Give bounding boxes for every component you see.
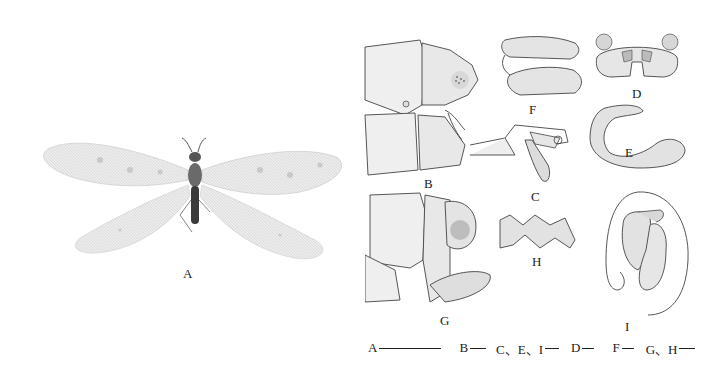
scale-bar-label: D (571, 340, 580, 356)
scale-bar-label: C、E、I (496, 339, 543, 358)
scale-bar-c-e-i: C、E、I (496, 339, 559, 358)
panel-label-b: B (424, 177, 433, 190)
panel-label-e: E (625, 146, 633, 159)
scale-bar-legend: A B C、E、I D F G、H (368, 340, 695, 356)
female-terminalia-illustration (365, 190, 505, 330)
scale-bar-g-h: G、H (646, 339, 696, 358)
panel-e: E (585, 103, 690, 178)
panel-label-i: I (625, 320, 629, 333)
scale-bar-label: F (612, 340, 619, 356)
curved-structure-illustration (585, 103, 690, 178)
panel-label-g: G (440, 314, 449, 327)
panel-g-terminalia-female: G (365, 190, 505, 330)
panel-label-h: H (532, 255, 541, 268)
terminalia-lateral-illustration (360, 35, 480, 185)
panel-c: C (470, 110, 580, 200)
paired-structure-illustration (495, 35, 585, 110)
panel-label-a: A (183, 267, 192, 280)
panel-i-spermatheca: I (598, 190, 698, 335)
scale-bar-line (622, 348, 634, 349)
genital-structure-illustration (470, 110, 580, 200)
scale-bar-line (379, 348, 441, 349)
panel-label-c: C (531, 190, 540, 203)
scale-bar-label: G、H (646, 339, 678, 358)
panel-label-d: D (632, 87, 641, 100)
insect-habitus-illustration (20, 130, 350, 280)
panel-d: D (592, 32, 682, 97)
scale-bar-line (470, 348, 486, 349)
scale-bar-d: D (571, 340, 594, 356)
panel-b-terminalia-lateral: B (360, 35, 480, 185)
scale-bar-line (582, 348, 594, 349)
spermatheca-illustration (598, 190, 698, 335)
scale-bar-f: F (612, 340, 633, 356)
scale-bar-line (679, 348, 695, 349)
panel-f: F (495, 35, 585, 110)
panel-h: H (495, 210, 580, 270)
scale-bar-b: B (459, 340, 486, 356)
scale-bar-line (545, 348, 559, 349)
scale-bar-label: A (368, 340, 377, 356)
scale-bar-label: B (459, 340, 468, 356)
panel-a-habitus: A (20, 130, 350, 280)
scale-bar-a: A (368, 340, 441, 356)
